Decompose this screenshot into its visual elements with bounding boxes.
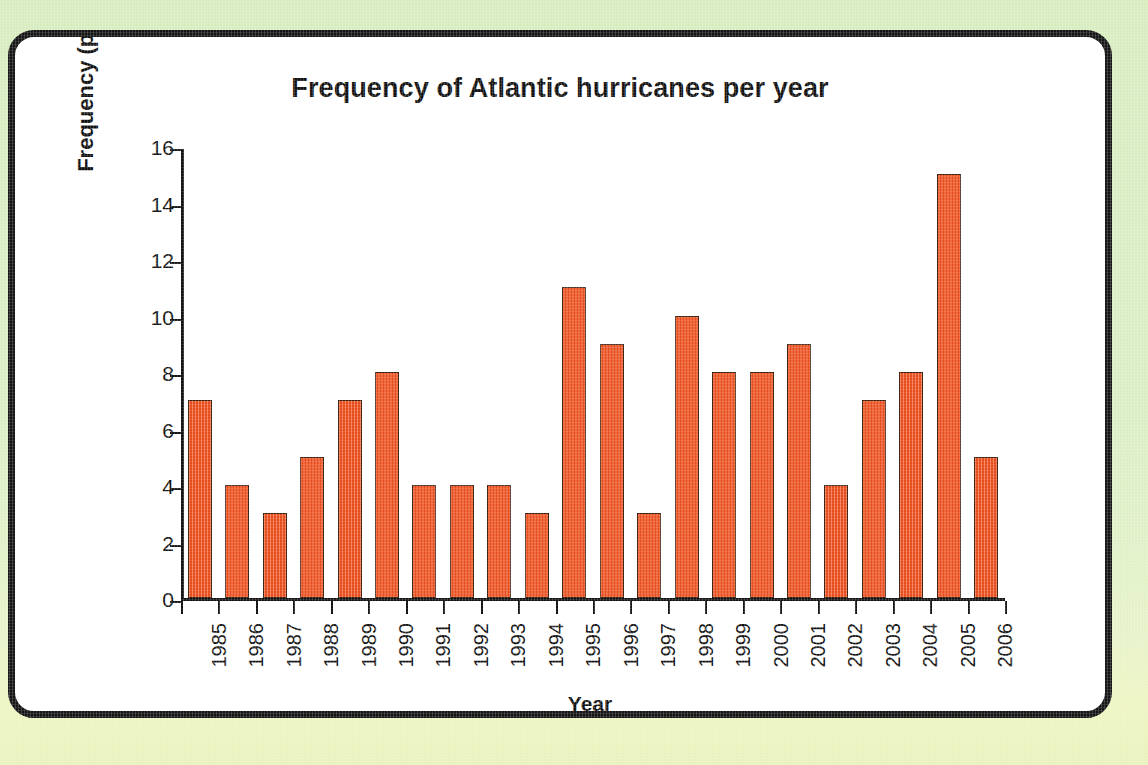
chart-title: Frequency of Atlantic hurricanes per yea…	[15, 73, 1105, 104]
x-tick-label: 2006	[994, 623, 1017, 668]
y-tick-label: 8	[162, 362, 174, 386]
x-tick-mark	[705, 601, 707, 614]
x-tick-mark	[630, 601, 632, 614]
x-tick-mark	[331, 601, 333, 614]
x-tick-label: 1993	[507, 623, 530, 668]
x-tick-label: 1985	[208, 623, 231, 668]
x-tick-label: 1997	[657, 623, 680, 668]
x-tick-label: 1994	[545, 623, 568, 668]
x-tick-mark	[518, 601, 520, 614]
x-tick-label: 2004	[919, 623, 942, 668]
page-background: Frequency of Atlantic hurricanes per yea…	[0, 0, 1148, 765]
y-tick-label: 2	[162, 532, 174, 556]
x-tick-mark	[443, 601, 445, 614]
x-tick-mark	[780, 601, 782, 614]
y-tick-label: 4	[162, 475, 174, 499]
x-tick-label: 1991	[432, 623, 455, 668]
bar	[974, 457, 998, 598]
x-tick-label: 1998	[695, 623, 718, 668]
x-tick-label: 2001	[807, 623, 830, 668]
x-tick-mark	[368, 601, 370, 614]
bar	[937, 174, 961, 598]
bar	[487, 485, 511, 598]
y-tick-label: 10	[151, 306, 174, 330]
x-tick-mark	[893, 601, 895, 614]
x-tick-mark	[556, 601, 558, 614]
x-tick-mark	[256, 601, 258, 614]
bar	[562, 287, 586, 598]
chart-card: Frequency of Atlantic hurricanes per yea…	[8, 30, 1112, 718]
bar	[188, 400, 212, 598]
x-tick-label: 1996	[620, 623, 643, 668]
x-tick-label: 2003	[882, 623, 905, 668]
x-tick-mark	[818, 601, 820, 614]
x-tick-label: 2002	[844, 623, 867, 668]
x-tick-mark	[930, 601, 932, 614]
y-tick-label: 6	[162, 419, 174, 443]
x-tick-mark	[968, 601, 970, 614]
plot-area: 0246810121416 19851986198719881989199019…	[181, 149, 1005, 601]
x-tick-mark	[743, 601, 745, 614]
bar	[525, 513, 549, 598]
x-tick-label: 1995	[582, 623, 605, 668]
bar	[787, 344, 811, 598]
x-tick-label: 1999	[732, 623, 755, 668]
bar	[600, 344, 624, 598]
bar	[375, 372, 399, 598]
x-tick-mark	[218, 601, 220, 614]
x-tick-label: 2000	[770, 623, 793, 668]
bar	[712, 372, 736, 598]
bar	[300, 457, 324, 598]
x-tick-mark	[855, 601, 857, 614]
x-tick-mark	[406, 601, 408, 614]
x-tick-label: 1989	[358, 623, 381, 668]
bar	[338, 400, 362, 598]
bar	[450, 485, 474, 598]
bar	[750, 372, 774, 598]
x-tick-mark	[668, 601, 670, 614]
y-axis-title-label: Frequency (per year)	[73, 30, 99, 172]
bar	[824, 485, 848, 598]
bar	[225, 485, 249, 598]
x-tick-mark	[481, 601, 483, 614]
x-tick-label: 2005	[957, 623, 980, 668]
x-tick-label: 1992	[470, 623, 493, 668]
x-tick-label: 1988	[320, 623, 343, 668]
bar	[899, 372, 923, 598]
bar	[412, 485, 436, 598]
bar	[637, 513, 661, 598]
x-axis-title: Year	[175, 692, 1005, 716]
y-axis-title: Frequency (per year)	[73, 30, 99, 233]
x-tick-mark	[181, 601, 183, 614]
y-tick-label: 0	[162, 588, 174, 612]
x-tick-label: 1987	[283, 623, 306, 668]
x-tick-mark	[593, 601, 595, 614]
y-tick-label: 16	[151, 136, 174, 160]
y-tick-label: 12	[151, 249, 174, 273]
bar	[263, 513, 287, 598]
y-tick-label: 14	[151, 193, 174, 217]
bar	[675, 316, 699, 599]
x-tick-mark	[293, 601, 295, 614]
bar	[862, 400, 886, 598]
y-axis-line	[181, 149, 184, 601]
x-tick-mark	[1005, 601, 1007, 614]
x-tick-label: 1986	[245, 623, 268, 668]
x-tick-label: 1990	[395, 623, 418, 668]
